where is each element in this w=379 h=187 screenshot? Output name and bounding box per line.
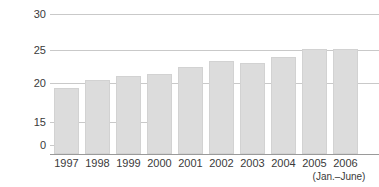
bar-1997[interactable] [54, 88, 79, 154]
x-axis-label-2000: 2000 [144, 157, 175, 169]
x-axis-labels: (Jan.–June) 1997199819992000200120022003… [42, 157, 379, 187]
bar-1998[interactable] [85, 80, 110, 154]
x-axis-label-2001: 2001 [175, 157, 206, 169]
bar-2001[interactable] [178, 67, 203, 154]
bar-1999[interactable] [116, 76, 141, 154]
bar-2005[interactable] [302, 49, 327, 154]
x-axis-label-1998: 1998 [82, 157, 113, 169]
bar-2003[interactable] [240, 63, 265, 154]
bar-2004[interactable] [271, 57, 296, 154]
bar-2000[interactable] [147, 74, 172, 154]
bar-2006[interactable] [333, 49, 358, 154]
x-axis-label-1997: 1997 [51, 157, 82, 169]
bar-chart: Percent 30 25 20 15 0 [0, 0, 379, 187]
x-axis-sublabel: (Jan.–June) [299, 171, 379, 182]
bar-2002[interactable] [209, 61, 234, 154]
x-axis-label-1999: 1999 [113, 157, 144, 169]
x-axis-label-2004: 2004 [268, 157, 299, 169]
x-axis-label-2002: 2002 [206, 157, 237, 169]
bars-layer [42, 0, 379, 156]
plot-area: 30 25 20 15 0 [42, 0, 379, 156]
x-axis-label-2006: 2006 [330, 157, 361, 169]
x-axis-label-2003: 2003 [237, 157, 268, 169]
x-axis-label-2005: 2005 [299, 157, 330, 169]
